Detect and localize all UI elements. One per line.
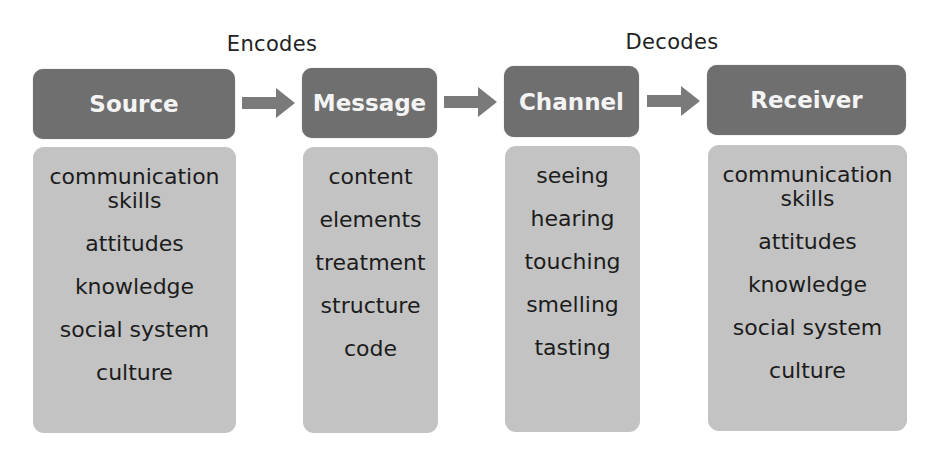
list-item: smelling	[526, 293, 619, 317]
encodes-label: Encodes	[227, 32, 317, 56]
list-item: communication skills	[40, 165, 230, 213]
decodes-label: Decodes	[626, 30, 719, 54]
list-item: knowledge	[748, 273, 867, 297]
list-item: structure	[321, 294, 421, 318]
source-attributes: communication skills attitudes knowledge…	[33, 147, 236, 433]
message-attributes: content elements treatment structure cod…	[303, 147, 438, 433]
receiver-title: Receiver	[750, 87, 862, 113]
list-item: content	[328, 165, 412, 189]
message-header: Message	[302, 68, 437, 138]
list-item: culture	[769, 359, 846, 383]
source-header: Source	[33, 69, 235, 139]
source-title: Source	[89, 91, 178, 117]
receiver-header: Receiver	[707, 65, 906, 135]
list-item: touching	[524, 250, 620, 274]
list-item: attitudes	[85, 232, 183, 256]
list-item: culture	[96, 361, 173, 385]
list-item: seeing	[536, 164, 609, 188]
arrow-right-icon	[444, 87, 498, 117]
list-item: social system	[733, 316, 882, 340]
list-item: attitudes	[758, 230, 856, 254]
list-item: communication skills	[713, 163, 903, 211]
channel-title: Channel	[519, 89, 624, 115]
arrow-right-icon	[647, 86, 701, 116]
list-item: tasting	[534, 336, 610, 360]
list-item: code	[344, 337, 397, 361]
message-title: Message	[313, 90, 426, 116]
list-item: treatment	[315, 251, 425, 275]
channel-attributes: seeing hearing touching smelling tasting	[505, 146, 640, 432]
list-item: hearing	[530, 207, 614, 231]
channel-header: Channel	[504, 66, 639, 137]
list-item: elements	[319, 208, 421, 232]
receiver-attributes: communication skills attitudes knowledge…	[708, 145, 907, 431]
list-item: knowledge	[75, 275, 194, 299]
list-item: social system	[60, 318, 209, 342]
arrow-right-icon	[242, 88, 296, 118]
